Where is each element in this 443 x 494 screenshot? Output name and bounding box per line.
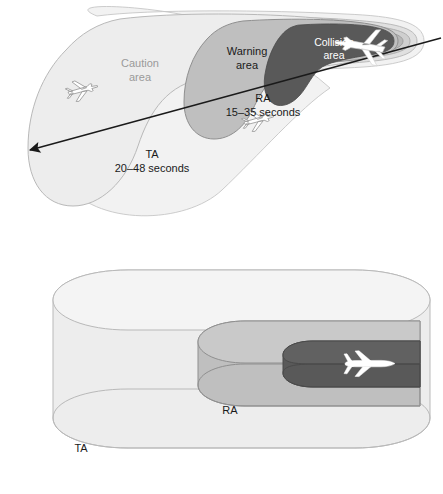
ta-timing-label: 20–48 seconds <box>115 162 190 174</box>
caution-area-label-line1: Caution <box>121 57 159 69</box>
collision-area-label-line1: Collision <box>314 36 354 48</box>
volume-ta-label: TA <box>74 442 88 454</box>
collision-area-label-line2: area <box>323 49 344 61</box>
ra-timing-label: 15–35 seconds <box>226 106 301 118</box>
ra-label: RA <box>255 92 271 104</box>
diagram-canvas: Caution area Warning area Collision area… <box>0 0 443 494</box>
volume-ra-label: RA <box>222 404 238 416</box>
volume-view-panel: RA TA <box>53 270 430 454</box>
plan-view-panel: Caution area Warning area Collision area… <box>28 7 441 216</box>
warning-area-label-line2: area <box>236 59 259 71</box>
warning-area-label-line1: Warning <box>227 45 268 57</box>
ta-label: TA <box>145 148 159 160</box>
tcas-protected-volume-diagram: Caution area Warning area Collision area… <box>0 0 443 494</box>
caution-area-label-line2: area <box>129 71 152 83</box>
